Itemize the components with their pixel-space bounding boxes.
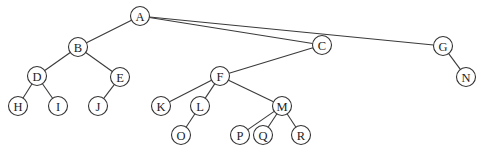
edge-d-h — [23, 84, 32, 98]
node-e: E — [111, 68, 130, 87]
node-label: M — [276, 100, 287, 114]
edge-g-n — [449, 54, 461, 70]
edge-e-j — [104, 85, 115, 99]
node-label: O — [176, 129, 185, 143]
node-m: M — [273, 97, 292, 116]
node-a: A — [131, 7, 150, 26]
node-label: H — [13, 100, 22, 114]
node-f: F — [211, 67, 230, 86]
node-p: P — [231, 126, 250, 145]
node-label: D — [32, 70, 41, 84]
node-label: E — [116, 71, 124, 85]
node-r: R — [292, 126, 311, 145]
edge-f-l — [205, 84, 214, 98]
edge-c-f — [229, 48, 313, 73]
edge-b-e — [86, 53, 113, 72]
node-o: O — [172, 126, 191, 145]
node-label: B — [74, 41, 82, 55]
node-label: N — [461, 71, 470, 85]
node-n: N — [457, 68, 476, 87]
node-k: K — [152, 97, 171, 116]
node-q: Q — [254, 126, 273, 145]
node-label: I — [56, 100, 60, 114]
edge-a-b — [86, 20, 131, 43]
node-label: L — [196, 100, 204, 114]
edge-a-g — [149, 17, 433, 45]
node-label: Q — [258, 129, 267, 143]
edge-d-i — [42, 84, 52, 98]
node-label: K — [156, 100, 165, 114]
node-i: I — [49, 97, 68, 116]
edge-b-d — [45, 52, 70, 70]
node-g: G — [434, 37, 453, 56]
node-b: B — [69, 38, 88, 57]
node-label: F — [217, 70, 224, 84]
node-h: H — [9, 97, 28, 116]
node-j: J — [89, 97, 108, 116]
node-label: R — [297, 129, 306, 143]
node-label: J — [96, 100, 101, 114]
edge-l-o — [186, 114, 195, 127]
tree-nodes: ABCGDEFNHIJKLMOPQR — [9, 7, 476, 145]
tree-diagram: ABCGDEFNHIJKLMOPQR — [0, 0, 484, 157]
node-label: G — [438, 40, 447, 54]
tree-edges — [23, 17, 460, 130]
node-label: C — [318, 39, 326, 53]
edge-m-q — [268, 114, 277, 127]
node-l: L — [191, 97, 210, 116]
node-label: P — [237, 129, 244, 143]
edge-f-m — [229, 80, 274, 102]
node-label: A — [135, 10, 144, 24]
node-c: C — [313, 36, 332, 55]
edge-m-r — [287, 114, 296, 127]
node-d: D — [28, 67, 47, 86]
